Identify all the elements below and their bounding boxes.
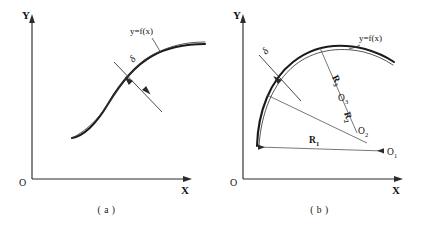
panel-b-y-axis-label: Y	[233, 9, 241, 21]
panel-b-x-axis-label: X	[392, 184, 400, 196]
panel-b-delta-label: δ	[259, 45, 270, 56]
panel-b-origin-label: O	[230, 177, 237, 188]
panel-b-center-2-label: O2	[358, 126, 368, 138]
panel-a-x-axis	[32, 176, 192, 182]
panel-a-function-leader	[152, 38, 161, 53]
panel-a-curve-lower	[72, 42, 205, 138]
figure-root: Y X O δ y=f(x) Y X	[0, 0, 426, 233]
panel-a-function-label: y=f(x)	[130, 26, 153, 36]
panel-b-radius-1-line	[258, 145, 384, 154]
panel-b-caption: ( b )	[213, 205, 426, 215]
panel-b-y-axis	[240, 14, 246, 179]
panel-a-x-axis-label: X	[181, 184, 189, 196]
panel-b-radius-1-label: R1	[309, 135, 319, 147]
panel-b-arc-inner	[259, 50, 393, 146]
panel-a-delta-arrow	[114, 62, 162, 112]
panel-a-y-axis-label: Y	[22, 9, 30, 21]
panel-b-center-3-label: O3	[338, 93, 348, 105]
panel-b-x-axis	[243, 176, 403, 182]
panel-b-radius-3-line	[320, 48, 357, 133]
panel-a-caption: ( a )	[0, 205, 213, 215]
panel-a-delta-label: δ	[127, 53, 138, 64]
panel-b-diagram: Y X O R1 R2 R3 O3	[213, 0, 426, 205]
panel-a-y-axis	[29, 14, 35, 179]
panel-b-radius-2-label: R2	[341, 111, 355, 124]
panel-a-diagram: Y X O δ y=f(x)	[0, 0, 213, 205]
panel-b-radius-3-label: R3	[329, 73, 344, 88]
panel-b-center-1-label: O1	[387, 147, 397, 159]
panel-a-origin-label: O	[19, 177, 26, 188]
panel-b-function-label: y=f(x)	[359, 33, 382, 43]
panel-b-radius-2-line	[267, 95, 367, 143]
